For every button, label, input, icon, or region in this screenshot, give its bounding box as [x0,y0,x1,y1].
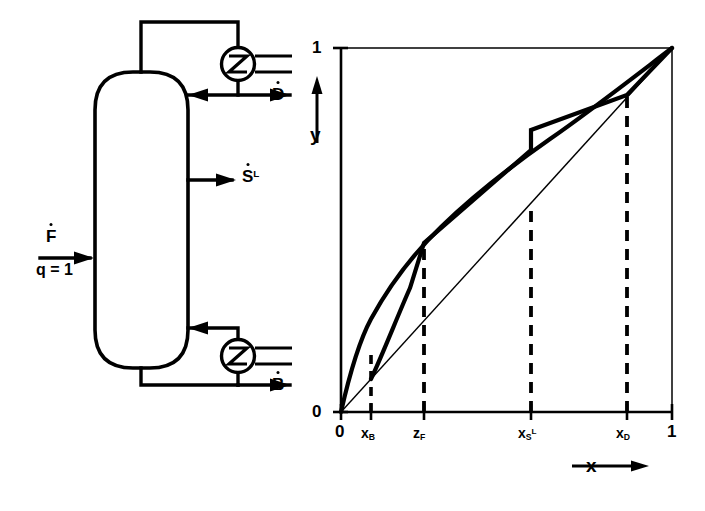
sidedraw-label: SL [242,168,259,185]
condenser-icon [222,48,293,81]
feed-arrowhead [74,252,94,265]
xB-tick-label: xB [361,426,375,442]
sidedraw-symbol: S [242,168,253,185]
flow-arrowheads [74,89,290,392]
sidedraw-arrowhead [216,174,236,187]
reboiler-icon [222,340,293,373]
feed-quality-label: q = 1 [36,262,73,278]
flowsheet-diagram [0,0,330,511]
y-axis-min-label: 0 [312,403,321,420]
x-axis-title: x [586,456,597,475]
bottoms-label: B [272,376,284,393]
sidedraw-superscript: L [253,168,259,179]
x-axis-arrow [572,461,649,472]
figure-canvas: D SL B F q = 1 [0,0,705,511]
bottoms-line [141,368,238,385]
distillate-symbol: D [272,86,284,103]
x-axis-origin-label: 0 [335,423,344,440]
feed-label: F [46,228,56,245]
xSL-tick-label: xSL [518,426,537,442]
x-axis-max-label: 1 [667,423,676,440]
xD-tick-label: xD [616,426,630,442]
y-axis-title: y [310,125,321,144]
distillate-label: D [272,86,284,103]
reflux-arrowhead [188,89,208,102]
y-axis-max-label: 1 [312,39,321,56]
bottoms-symbol: B [272,376,284,393]
dashed-verticals [371,95,627,412]
reboiler-return-arrowhead [188,322,208,335]
feed-symbol: F [46,228,56,245]
zF-tick-label: zF [413,426,425,442]
column-shell [95,72,188,368]
diagonal-line [341,48,672,412]
